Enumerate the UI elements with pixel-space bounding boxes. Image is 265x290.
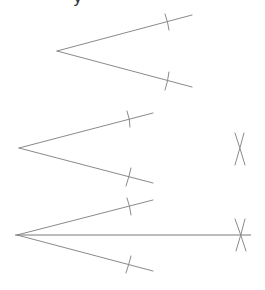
step-1-upper-ray	[57, 15, 192, 51]
step-3-upper-ray	[17, 200, 153, 235]
step-1-angle	[57, 14, 192, 90]
angle-bisector-diagram: y	[0, 0, 265, 290]
step-2-angle	[19, 111, 245, 186]
step-1-lower-ray	[57, 51, 192, 87]
step-3-lower-ray	[17, 235, 153, 271]
diagram-svg	[0, 0, 265, 290]
step-3-angle	[15, 198, 251, 273]
cropped-text-glyph: y	[73, 0, 82, 6]
step-2-upper-ray	[19, 113, 153, 148]
step-2-lower-ray	[19, 148, 153, 183]
